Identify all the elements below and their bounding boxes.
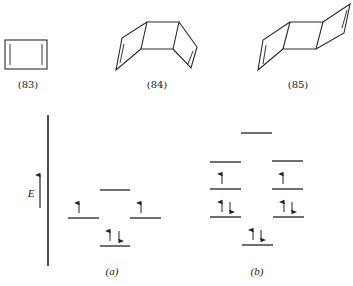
central-ring bbox=[283, 22, 323, 49]
left-wing-ring bbox=[116, 22, 147, 70]
molecule-83: (83) bbox=[5, 40, 47, 90]
molecule-label: (85) bbox=[288, 79, 309, 90]
molecule-85: (85) bbox=[258, 4, 350, 90]
right-wing-ring bbox=[173, 22, 197, 68]
double-bond-line bbox=[263, 45, 266, 64]
energy-axis: E bbox=[27, 115, 48, 266]
right-wing-ring bbox=[316, 4, 350, 49]
molecule-84: (84) bbox=[116, 22, 197, 90]
panel-b: (b) bbox=[210, 133, 304, 278]
central-ring bbox=[141, 22, 179, 49]
cyclobutadiene-ring bbox=[5, 40, 47, 69]
figure: (83) (84) (85) E (a) bbox=[0, 0, 353, 286]
axis-label: E bbox=[27, 187, 35, 199]
panel-label: (b) bbox=[251, 265, 264, 278]
molecule-label: (84) bbox=[147, 79, 168, 90]
panel-a: (a) bbox=[68, 190, 161, 278]
double-bond-line bbox=[342, 10, 347, 28]
panel-label: (a) bbox=[106, 265, 119, 278]
molecule-label: (83) bbox=[18, 79, 39, 90]
